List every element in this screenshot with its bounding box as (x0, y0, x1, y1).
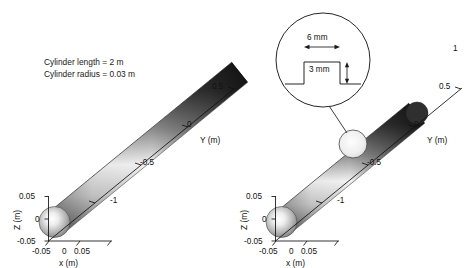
z-tick-1: 0 (35, 215, 40, 224)
z-tick-2: -0.05 (244, 237, 263, 246)
x-tick-2: 0.05 (74, 247, 90, 256)
defect-magnifier (276, 13, 370, 107)
defect-marker (339, 130, 367, 158)
x-axis-label: x (m) (286, 258, 305, 268)
callout-height-label: 3 mm (308, 65, 330, 74)
x-tick-1: 0 (62, 247, 67, 256)
z-tick-1: 0 (262, 215, 267, 224)
z-tick-0: 0.05 (246, 192, 262, 201)
x-tick-2: 0.05 (301, 247, 317, 256)
x-tick-1: 0 (289, 247, 294, 256)
y-axis-label: Y (m) (427, 135, 447, 145)
y-tick-0: -1 (110, 196, 117, 205)
y-tick-2: 0 (414, 120, 419, 129)
y-axis-label: Y (m) (200, 135, 220, 145)
y-tick-1: -0.5 (140, 158, 154, 167)
z-tick-0: 0.05 (19, 192, 35, 201)
y-tick-0: -1 (337, 196, 344, 205)
x-tick-0: -0.05 (259, 247, 278, 256)
cylinder-near-cap (266, 207, 297, 238)
y-tick-3: 0.5 (212, 82, 223, 91)
left-panel-graphics (0, 0, 235, 267)
y-tick-4: 1 (453, 44, 458, 53)
y-tick-3: 0.5 (439, 82, 450, 91)
x-axis-label: x (m) (59, 258, 78, 268)
z-axis-label: Z (m) (12, 210, 22, 230)
defect-cylinder-panel: 6 mm 3 mm 0.05 0 -0.05 -0.05 0 0.05 -1 -… (235, 0, 470, 267)
right-panel-graphics (235, 0, 470, 267)
z-tick-2: -0.05 (17, 237, 36, 246)
y-tick-2: 0 (187, 120, 192, 129)
cylinder-near-cap (39, 207, 70, 238)
cylinder-body (275, 102, 428, 233)
callout-width-label: 6 mm (306, 33, 328, 42)
x-axis-ticks (46, 241, 112, 246)
x-tick-0: -0.05 (32, 247, 51, 256)
y-tick-1: -0.5 (367, 158, 381, 167)
smooth-cylinder-panel: Cylinder length = 2 m Cylinder radius = … (0, 0, 235, 267)
annotation-cylinder-radius: Cylinder radius = 0.03 m (44, 69, 135, 81)
x-axis-ticks (273, 241, 339, 246)
annotation-cylinder-length: Cylinder length = 2 m (44, 57, 123, 69)
z-axis-label: Z (m) (239, 210, 249, 230)
